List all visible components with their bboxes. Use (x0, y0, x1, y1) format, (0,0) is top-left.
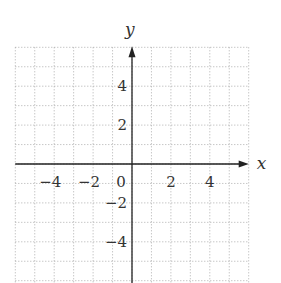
x-tick-label: −4 (39, 173, 61, 191)
x-tick-labels: −4−2024 (39, 173, 214, 191)
x-tick-label: 4 (205, 173, 215, 191)
y-tick-label: 2 (117, 116, 127, 134)
coordinate-plane: x y −4−2024 42−2−4 (0, 0, 281, 283)
x-tick-label: 2 (166, 173, 176, 191)
x-axis-label: x (257, 153, 267, 173)
y-tick-label: 4 (117, 77, 127, 95)
y-axis-arrow-icon (129, 46, 136, 57)
y-tick-label: −2 (105, 194, 127, 212)
x-tick-label: −2 (78, 173, 100, 191)
x-axis-arrow-icon (239, 161, 249, 168)
y-tick-label: −4 (105, 233, 127, 251)
y-axis-label: y (124, 19, 135, 39)
axes (15, 46, 248, 283)
x-tick-label: 0 (116, 173, 126, 191)
